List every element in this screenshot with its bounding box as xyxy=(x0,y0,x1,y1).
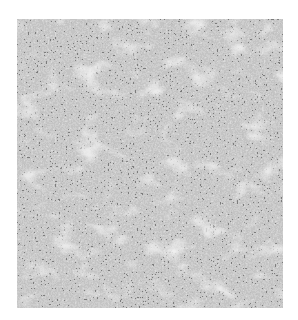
page-canvas xyxy=(0,0,298,320)
grain-layer xyxy=(17,19,283,308)
histology-micrograph-image xyxy=(17,19,283,308)
micrograph-texture xyxy=(17,19,283,308)
